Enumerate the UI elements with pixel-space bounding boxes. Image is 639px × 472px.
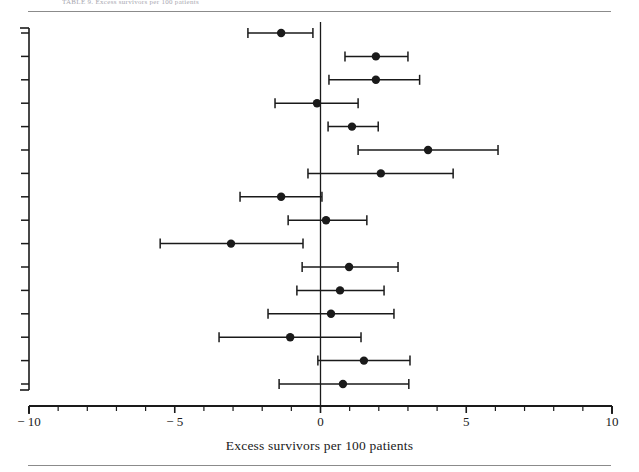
point-estimate-marker bbox=[277, 193, 285, 201]
x-tick-label: 10 bbox=[587, 414, 637, 430]
plot-area bbox=[0, 0, 639, 472]
forest-plot-figure: TABLE 9. Excess survivors per 100 patien… bbox=[0, 0, 639, 472]
plot-svg bbox=[0, 0, 639, 472]
bottom-horizontal-rule bbox=[28, 465, 611, 466]
point-estimate-marker bbox=[372, 52, 380, 60]
point-estimate-marker bbox=[360, 356, 368, 364]
point-estimate-marker bbox=[345, 263, 353, 271]
point-estimate-marker bbox=[322, 216, 330, 224]
point-estimate-marker bbox=[372, 76, 380, 84]
point-estimate-marker bbox=[313, 99, 321, 107]
x-axis-label: Excess survivors per 100 patients bbox=[0, 438, 639, 454]
x-tick-label: 0 bbox=[296, 414, 346, 430]
x-tick-label: − 10 bbox=[4, 414, 54, 430]
point-estimate-marker bbox=[377, 169, 385, 177]
point-estimate-marker bbox=[336, 286, 344, 294]
point-estimate-marker bbox=[327, 310, 335, 318]
x-tick-label: − 5 bbox=[150, 414, 200, 430]
point-estimate-marker bbox=[348, 122, 356, 130]
point-estimate-marker bbox=[227, 239, 235, 247]
point-estimate-marker bbox=[424, 146, 432, 154]
point-estimate-marker bbox=[339, 380, 347, 388]
point-estimate-marker bbox=[286, 333, 294, 341]
point-estimate-marker bbox=[277, 29, 285, 37]
x-tick-label: 5 bbox=[441, 414, 491, 430]
